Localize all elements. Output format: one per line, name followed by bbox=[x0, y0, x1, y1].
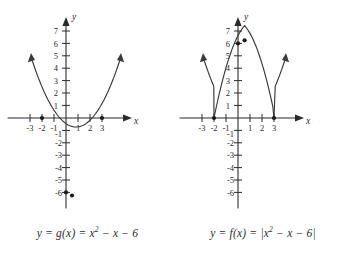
y-axis-label: y bbox=[71, 12, 77, 22]
y-ticklabel--3: -3 bbox=[227, 150, 234, 160]
y-ticklabel--4: -4 bbox=[55, 163, 63, 173]
y-axis-arrowhead bbox=[62, 17, 69, 26]
point-cusp-right bbox=[272, 116, 276, 120]
y-ticklabel-6: 6 bbox=[226, 39, 230, 49]
x-axis-arrowhead bbox=[295, 114, 304, 121]
y-ticklabel--5: -5 bbox=[227, 175, 234, 185]
right-figure: -3 -2 -1 1 2 3 7 6 5 4 3 2 1 -1 -2 -3 -4… bbox=[175, 0, 351, 253]
right-caption-lhs: y = f(x) = |x bbox=[210, 227, 269, 239]
left-caption-lhs: y = g(x) = x bbox=[37, 227, 95, 239]
y-ticklabel-7: 7 bbox=[226, 26, 230, 36]
curve-right-arrowhead bbox=[117, 53, 124, 62]
x-ticklabel-3: 3 bbox=[100, 123, 104, 133]
x-ticklabel-1: 1 bbox=[76, 123, 80, 133]
figure-pair: -3 -2 -1 1 2 3 7 6 5 4 3 2 1 -1 -2 -3 -4… bbox=[0, 0, 351, 253]
y-ticklabel-1: 1 bbox=[54, 101, 58, 111]
x-ticklabel-2: 2 bbox=[88, 123, 92, 133]
curve-left-arrowhead bbox=[28, 53, 35, 62]
y-ticklabel-2: 2 bbox=[226, 88, 230, 98]
point-cusp-left bbox=[212, 116, 216, 120]
right-caption-rhs: − x − 6| bbox=[273, 227, 316, 239]
y-ticklabel-6: 6 bbox=[54, 39, 58, 49]
point-y-intercept bbox=[64, 190, 68, 194]
y-ticklabel--3: -3 bbox=[55, 150, 62, 160]
x-ticklabel-3: 3 bbox=[272, 123, 276, 133]
y-ticklabel-3: 3 bbox=[226, 76, 230, 86]
y-ticklabel-3: 3 bbox=[54, 76, 58, 86]
y-axis-arrowhead bbox=[234, 17, 241, 26]
point-local-max bbox=[243, 38, 247, 42]
y-ticklabel--6: -6 bbox=[55, 188, 62, 198]
y-ticklabel-1: 1 bbox=[226, 101, 230, 111]
y-ticklabel--5: -5 bbox=[55, 175, 62, 185]
y-ticklabel-7: 7 bbox=[54, 26, 58, 36]
point-root-right bbox=[100, 116, 104, 120]
y-ticklabel-2: 2 bbox=[54, 88, 58, 98]
x-ticklabel--3: -3 bbox=[26, 123, 33, 133]
curve-f-right-branch bbox=[274, 60, 285, 118]
x-axis-label: x bbox=[133, 116, 139, 126]
right-caption: y = f(x) = |x2 − x − 6| bbox=[175, 227, 351, 239]
x-ticklabel--2: -2 bbox=[38, 123, 45, 133]
x-axis-label: x bbox=[305, 116, 311, 126]
y-ticklabel--2: -2 bbox=[227, 138, 234, 148]
point-vertex bbox=[70, 193, 74, 197]
curve-right-arrowhead bbox=[282, 53, 289, 62]
y-ticklabel--4: -4 bbox=[227, 163, 235, 173]
left-figure: -3 -2 -1 1 2 3 7 6 5 4 3 2 1 -1 -2 -3 -4… bbox=[0, 0, 175, 253]
x-ticklabel-2: 2 bbox=[260, 123, 264, 133]
point-y-intercept bbox=[236, 41, 240, 45]
curve-f-left-branch bbox=[204, 60, 214, 118]
y-ticklabel-4: 4 bbox=[54, 63, 59, 73]
left-caption-rhs: − x − 6 bbox=[99, 227, 138, 239]
curve-g bbox=[32, 60, 120, 127]
x-ticklabel--3: -3 bbox=[198, 123, 205, 133]
y-ticklabel--2: -2 bbox=[55, 138, 62, 148]
curve-left-arrowhead bbox=[200, 53, 207, 62]
point-root-left bbox=[40, 116, 44, 120]
x-ticklabel-1: 1 bbox=[248, 123, 252, 133]
right-plot: -3 -2 -1 1 2 3 7 6 5 4 3 2 1 -1 -2 -3 -4… bbox=[175, 0, 351, 220]
left-caption: y = g(x) = x2 − x − 6 bbox=[0, 227, 175, 239]
x-axis-arrowhead bbox=[123, 114, 132, 121]
y-axis-label: y bbox=[243, 12, 249, 22]
x-ticklabel--2: -2 bbox=[210, 123, 217, 133]
y-ticklabel--6: -6 bbox=[227, 188, 234, 198]
left-plot: -3 -2 -1 1 2 3 7 6 5 4 3 2 1 -1 -2 -3 -4… bbox=[0, 0, 175, 220]
y-ticklabel-5: 5 bbox=[54, 51, 58, 61]
